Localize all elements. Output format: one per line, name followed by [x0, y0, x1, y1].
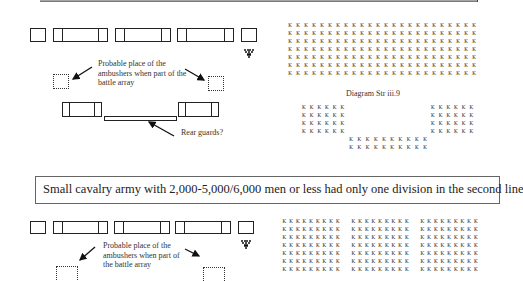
cavalry-unit-mark: K — [374, 22, 382, 30]
cavalry-unit-mark: K — [390, 226, 397, 234]
cavalry-unit-mark: K — [462, 54, 470, 62]
cavalry-unit-mark: K — [383, 234, 390, 242]
cavalry-unit-mark: K — [334, 258, 341, 266]
cavalry-unit-mark: K — [366, 46, 374, 54]
cavalry-unit-mark: K — [403, 226, 410, 234]
cavalry-unit-mark: K — [398, 38, 406, 46]
cavalry-unit-mark: K — [326, 46, 334, 54]
cavalry-unit-mark: K — [357, 258, 364, 266]
cavalry-unit-mark: K — [363, 258, 370, 266]
cavalry-unit-mark: K — [466, 258, 473, 266]
cavalry-unit-mark: K — [315, 128, 323, 136]
cavalry-unit-mark: K — [452, 218, 459, 226]
cavalry-unit-mark: K — [281, 242, 288, 250]
cavalry-unit-mark: K — [397, 250, 404, 258]
cavalry-unit-mark: K — [377, 258, 384, 266]
cavalry-unit-mark: K — [310, 38, 318, 46]
cavalry-unit-mark: K — [310, 62, 318, 70]
cavalry-unit-mark: K — [419, 250, 426, 258]
cavalry-unit-mark: K — [426, 218, 433, 226]
cavalry-unit-mark: K — [350, 266, 357, 274]
cavalry-unit-mark: K — [383, 226, 390, 234]
cavalry-unit-mark: K — [301, 234, 308, 242]
cavalry-unit-mark: K — [310, 22, 318, 30]
cavalry-unit-mark: K — [350, 46, 358, 54]
cavalry-unit-mark: K — [470, 46, 478, 54]
cavalry-unit-mark: K — [403, 266, 410, 274]
cavalry-unit-mark: K — [370, 242, 377, 250]
cavalry-unit-mark: K — [318, 70, 326, 78]
cavalry-unit-mark: K — [380, 144, 388, 152]
cavalry-unit-mark: K — [334, 250, 341, 258]
cavalry-unit-mark: K — [358, 62, 366, 70]
cavalry-unit-mark: K — [426, 242, 433, 250]
cavalry-unit-mark: K — [363, 234, 370, 242]
cavalry-unit-mark: K — [342, 22, 350, 30]
cavalry-unit-mark: K — [466, 242, 473, 250]
cavalry-unit-mark: K — [308, 226, 315, 234]
cavalry-unit-mark: K — [403, 234, 410, 242]
cavalry-unit-mark: K — [374, 62, 382, 70]
cavalry-unit-mark: K — [414, 46, 422, 54]
cavalry-unit-mark: K — [419, 258, 426, 266]
cavalry-unit-mark: K — [406, 22, 414, 30]
cavalry-unit-mark: K — [446, 218, 453, 226]
cavalry-unit-mark: K — [286, 54, 294, 62]
cavalry-unit-mark: K — [294, 30, 302, 38]
cavalry-unit-mark: K — [358, 46, 366, 54]
cavalry-unit-mark: K — [363, 250, 370, 258]
cavalry-unit-mark: K — [397, 218, 404, 226]
cavalry-unit-mark: K — [334, 226, 341, 234]
cavalry-unit-mark: K — [315, 120, 323, 128]
cavalry-unit-mark: K — [286, 46, 294, 54]
cavalry-unit-mark: K — [338, 112, 346, 120]
cavalry-unit-mark: K — [460, 128, 468, 136]
cavalry-unit-mark: K — [406, 62, 414, 70]
cavalry-unit-mark: K — [328, 234, 335, 242]
cavalry-unit-mark: K — [429, 128, 437, 136]
cavalry-unit-mark: K — [370, 234, 377, 242]
ambusher-position-left-2 — [56, 266, 78, 280]
cavalry-unit-mark: K — [331, 112, 339, 120]
cavalry-unit-mark: K — [454, 22, 462, 30]
cavalry-unit-mark: K — [426, 258, 433, 266]
cavalry-unit-mark: K — [334, 54, 342, 62]
cavalry-unit-mark: K — [300, 104, 308, 112]
cavalry-unit-mark: K — [426, 266, 433, 274]
cavalry-unit-mark: K — [342, 38, 350, 46]
cavalry-unit-mark: K — [397, 242, 404, 250]
cavalry-unit-mark: K — [328, 250, 335, 258]
cavalry-unit-mark: K — [472, 266, 479, 274]
cavalry-unit-mark: K — [466, 218, 473, 226]
cavalry-unit-mark: K — [422, 70, 430, 78]
cavalry-unit-mark: K — [377, 218, 384, 226]
cavalry-unit-mark: K — [454, 38, 462, 46]
cavalry-unit-mark: K — [454, 62, 462, 70]
cavalry-unit-mark: K — [302, 70, 310, 78]
cavalry-unit-mark: K — [390, 234, 397, 242]
cavalry-unit-mark: K — [326, 70, 334, 78]
cavalry-unit-mark: K — [314, 250, 321, 258]
cavalry-unit-mark: K — [302, 62, 310, 70]
right-wing-grid: KKKKKKKKKKKKKKKKKKKKKKKK — [429, 104, 475, 136]
cavalry-unit-mark: K — [470, 62, 478, 70]
cavalry-unit-mark: K — [334, 22, 342, 30]
cavalry-block-1: KKKKKKKKKKKKKKKKKKKKKKKKKKKKKKKKKKKKKKKK… — [281, 218, 341, 274]
cavalry-unit-mark: K — [459, 266, 466, 274]
cavalry-unit-mark: K — [363, 266, 370, 274]
cavalry-unit-mark: K — [452, 266, 459, 274]
cavalry-unit-mark: K — [286, 70, 294, 78]
cavalry-unit-mark: K — [470, 70, 478, 78]
cavalry-unit-mark: K — [377, 250, 384, 258]
cavalry-unit-mark: K — [328, 266, 335, 274]
cavalry-unit-mark: K — [334, 38, 342, 46]
cavalry-unit-mark: K — [438, 22, 446, 30]
cavalry-unit-mark: K — [301, 218, 308, 226]
cavalry-unit-mark: K — [377, 234, 384, 242]
cavalry-unit-mark: K — [288, 250, 295, 258]
cavalry-unit-mark: K — [310, 70, 318, 78]
cavalry-unit-mark: K — [326, 54, 334, 62]
cavalry-unit-mark: K — [430, 38, 438, 46]
cavalry-unit-mark: K — [288, 258, 295, 266]
cavalry-unit-mark: K — [326, 30, 334, 38]
